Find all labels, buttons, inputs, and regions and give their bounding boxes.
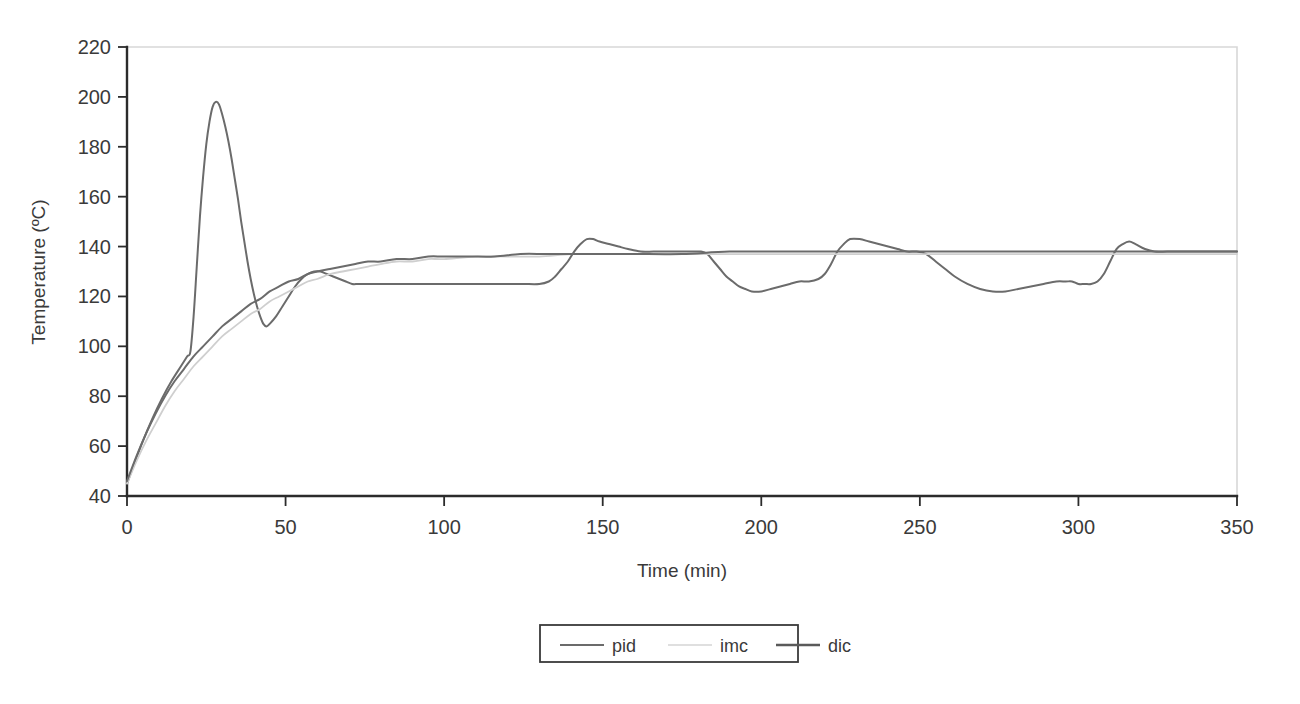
x-tick-label: 150	[586, 516, 619, 538]
y-tick-label: 200	[78, 86, 111, 108]
y-tick-label: 180	[78, 136, 111, 158]
y-tick-label: 160	[78, 186, 111, 208]
chart-background	[0, 0, 1300, 704]
x-tick-label: 100	[427, 516, 460, 538]
y-tick-label: 60	[89, 435, 111, 457]
x-tick-label: 250	[903, 516, 936, 538]
y-tick-label: 220	[78, 36, 111, 58]
x-tick-label: 200	[745, 516, 778, 538]
y-tick-label: 80	[89, 385, 111, 407]
legend-box	[540, 625, 798, 662]
y-axis-title: Temperature (ºC)	[28, 199, 49, 344]
y-tick-label: 140	[78, 236, 111, 258]
y-tick-label: 40	[89, 485, 111, 507]
x-axis-title: Time (min)	[637, 560, 727, 581]
y-tick-label: 120	[78, 285, 111, 307]
x-tick-label: 350	[1220, 516, 1253, 538]
temperature-time-line-chart: 406080100120140160180200220 050100150200…	[0, 0, 1300, 704]
x-tick-label: 300	[1062, 516, 1095, 538]
x-tick-label: 0	[121, 516, 132, 538]
x-tick-label: 50	[274, 516, 296, 538]
legend-label-dic: dic	[828, 636, 851, 656]
legend-label-imc: imc	[720, 636, 748, 656]
y-tick-label: 100	[78, 335, 111, 357]
legend-label-pid: pid	[612, 636, 636, 656]
